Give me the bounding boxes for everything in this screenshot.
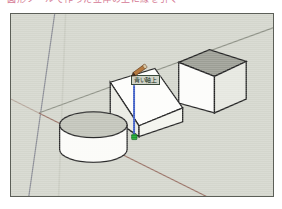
viewport-scene[interactable] [11,14,273,196]
caption-text: 図形ツールで作った立体の上に線を引く [7,0,178,4]
sketchup-modeling-viewport[interactable]: 青い軸上 [10,13,274,197]
cube-solid[interactable] [179,50,246,113]
endpoint-inference-marker [132,134,137,139]
inference-tooltip: 青い軸上 [131,75,160,85]
cylinder-top-face[interactable] [60,112,127,138]
caption-strip: 図形ツールで作った立体の上に線を引く [0,0,282,9]
cylinder-solid[interactable] [60,112,127,162]
